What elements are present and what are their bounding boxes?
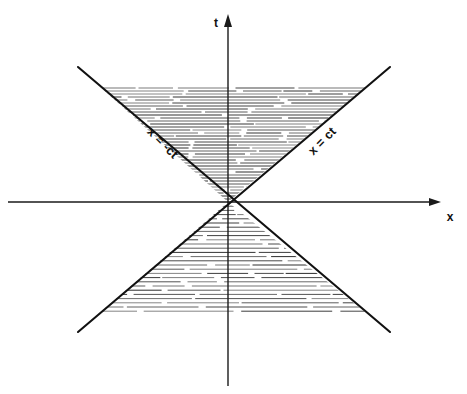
x-axis-label: x xyxy=(447,210,454,224)
light-cone-figure: t x x = -ct x = ct xyxy=(0,0,467,394)
light-cone-svg: t x x = -ct x = ct xyxy=(0,0,467,394)
t-axis-label: t xyxy=(214,16,218,30)
figure-background xyxy=(0,0,467,394)
